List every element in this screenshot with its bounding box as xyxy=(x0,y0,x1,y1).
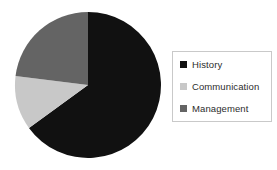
square-swatch-icon xyxy=(180,83,187,90)
pie-slices xyxy=(15,12,161,158)
square-swatch-icon xyxy=(180,105,187,112)
pie-chart-figure: History Communication Management xyxy=(0,0,277,170)
pie-chart-svg xyxy=(14,11,162,159)
pie-chart-plot-area xyxy=(14,11,162,159)
legend-item-communication[interactable]: Communication xyxy=(180,80,271,93)
square-swatch-icon xyxy=(180,61,187,68)
legend-item-management[interactable]: Management xyxy=(180,102,271,115)
legend-item-history[interactable]: History xyxy=(180,58,271,71)
legend-item-label: History xyxy=(192,59,222,70)
chart-legend: History Communication Management xyxy=(172,51,272,122)
pie-slice-management[interactable] xyxy=(16,12,88,85)
legend-item-label: Management xyxy=(192,103,248,114)
legend-item-label: Communication xyxy=(192,81,259,92)
